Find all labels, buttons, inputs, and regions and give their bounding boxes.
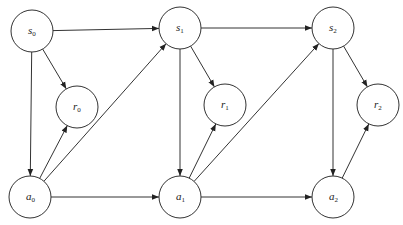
edge-a1-to-r1 xyxy=(189,124,216,178)
edge-s2-to-r2 xyxy=(344,46,368,87)
edge-s0-to-s1 xyxy=(53,28,159,30)
edge-s0-to-r0 xyxy=(43,49,67,89)
edge-s0-to-a0 xyxy=(30,52,31,176)
node-r0: r0 xyxy=(56,86,98,128)
node-r1: r1 xyxy=(204,84,246,126)
node-a0: a0 xyxy=(9,176,51,218)
node-s1: s1 xyxy=(159,7,201,49)
mdp-graph-diagram: s0s1s2r0r1r2a0a1a2 xyxy=(0,0,403,225)
node-r2: r2 xyxy=(357,84,399,126)
node-s2: s2 xyxy=(312,7,354,49)
node-a1: a1 xyxy=(159,176,201,218)
nodes-layer: s0s1s2r0r1r2a0a1a2 xyxy=(9,7,399,218)
node-s0: s0 xyxy=(11,10,53,52)
edge-s1-to-r1 xyxy=(191,46,215,87)
node-a2: a2 xyxy=(312,176,354,218)
edge-a2-to-r2 xyxy=(342,124,369,178)
